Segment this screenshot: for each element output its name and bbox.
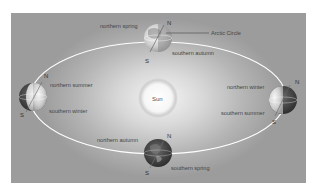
globe-top [144, 24, 209, 52]
label-south-pole-bottom: S [145, 170, 149, 176]
label-north-pole-right: N [295, 79, 299, 85]
sun-label: Sun [152, 96, 163, 102]
globe-bottom [144, 139, 172, 168]
label-north-pole-left: N [44, 73, 48, 79]
label-southern-spring: southern spring [171, 166, 210, 172]
label-arctic-circle: Arctic Circle [211, 31, 241, 37]
label-south-pole-top: S [145, 58, 149, 64]
label-southern-autumn: southern autumn [172, 51, 214, 57]
label-north-pole-top: N [167, 20, 171, 26]
orbit-diagram [0, 0, 316, 188]
globe-left [19, 82, 47, 112]
label-northern-spring: northern spring [100, 24, 138, 30]
label-south-pole-left: S [20, 112, 24, 118]
globe-right [269, 85, 297, 116]
label-south-pole-right: S [272, 119, 276, 125]
label-southern-winter: southern winter [49, 109, 87, 115]
label-northern-winter: northern winter [227, 85, 264, 91]
label-northern-autumn: northern autumn [97, 138, 138, 144]
label-north-pole-bottom: N [167, 133, 171, 139]
label-northern-summer: northern summer [50, 83, 93, 89]
label-southern-summer: southern summer [221, 111, 265, 117]
